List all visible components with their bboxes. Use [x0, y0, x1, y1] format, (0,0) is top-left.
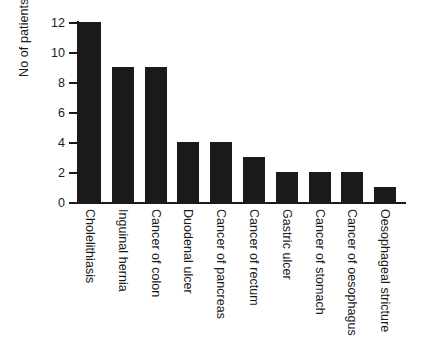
bar[interactable] [79, 22, 101, 202]
y-axis-tick-label: 4 [25, 137, 65, 149]
bar[interactable] [243, 157, 265, 202]
y-axis-tick-label: 2 [25, 167, 65, 179]
bar[interactable] [177, 142, 199, 202]
bar[interactable] [341, 172, 363, 202]
x-axis-label: Cancer of oesophagus [342, 209, 362, 357]
bar[interactable] [145, 67, 167, 202]
y-axis-tick-label: 12 [25, 17, 65, 29]
y-axis-tick [69, 142, 77, 144]
bar[interactable] [112, 67, 134, 202]
x-axis-label: Inguinal hernia [113, 209, 133, 357]
x-axis-label: Cancer of rectum [244, 209, 264, 357]
y-axis-tick [69, 172, 77, 174]
x-axis-label: Oesophageal stricture [375, 209, 395, 357]
x-axis-label: Cholelithiasis [80, 209, 100, 357]
y-axis-tick-label: 10 [25, 47, 65, 59]
y-axis-tick [69, 82, 77, 84]
y-axis-tick [69, 202, 77, 204]
y-axis-tick [69, 52, 77, 54]
x-axis-label: Gastric ulcer [277, 209, 297, 357]
y-axis-tick-label: 6 [25, 107, 65, 119]
bar-chart: No of patients 024681012 CholelithiasisI… [0, 0, 421, 357]
bar[interactable] [309, 172, 331, 202]
x-axis-line [77, 202, 406, 204]
x-axis-label: Cancer of pancreas [211, 209, 231, 357]
x-axis-label: Cancer of stomach [310, 209, 330, 357]
y-axis-tick-label: 0 [25, 197, 65, 209]
bar[interactable] [276, 172, 298, 202]
y-axis-tick [69, 112, 77, 114]
plot-area: 024681012 CholelithiasisInguinal herniaC… [0, 0, 421, 357]
bar[interactable] [210, 142, 232, 202]
y-axis-tick-label: 8 [25, 77, 65, 89]
x-axis-label: Cancer of colon [146, 209, 166, 357]
y-axis-tick [69, 22, 77, 24]
bar[interactable] [374, 187, 396, 202]
x-axis-label: Duodenal ulcer [178, 209, 198, 357]
